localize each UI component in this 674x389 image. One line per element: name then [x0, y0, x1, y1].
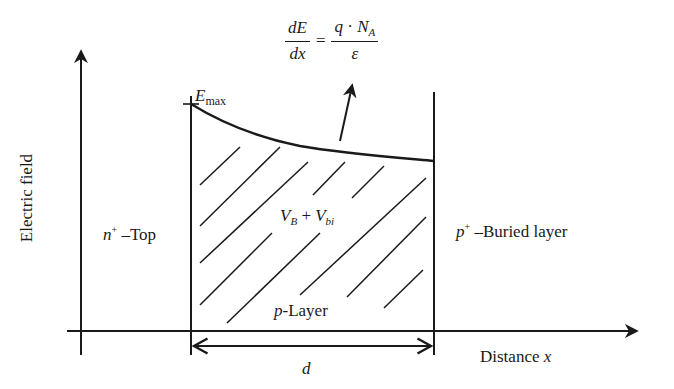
x-axis-label: Distance x: [480, 348, 551, 365]
emax-label: Emax: [195, 87, 226, 107]
width-label: d: [302, 360, 311, 377]
eq-rhs-numerator: q · NA: [331, 17, 378, 42]
voltage-label: VB + Vbi: [280, 207, 334, 227]
region-p-layer-label: p-Layer: [274, 302, 328, 319]
region-n-top-label: n+ –Top: [103, 225, 156, 243]
region-p-buried-label: p+ –Buried layer: [456, 222, 567, 240]
eq-rhs-denominator: ε: [352, 42, 359, 64]
field-curve: [191, 104, 434, 161]
slope-equation: dE dx = q · NA ε: [285, 17, 378, 64]
eq-lhs-numerator: dE: [285, 18, 310, 42]
eq-lhs-denominator: dx: [289, 42, 305, 64]
hatch-lines: [200, 147, 426, 323]
eq-equals: =: [316, 31, 326, 51]
y-axis-label: Electric field: [17, 154, 37, 242]
slope-arrow: [340, 86, 352, 141]
